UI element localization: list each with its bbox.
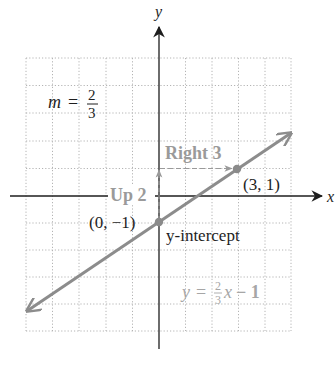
- coordinate-plane: x y m = 2 3 Right 3 Up 2 (3, 1) (0, −1) …: [0, 0, 335, 365]
- run-label: Right 3: [165, 143, 222, 163]
- point-label-0-neg1: (0, −1): [89, 213, 135, 232]
- svg-text:y: y: [180, 282, 190, 302]
- equation-label: y = 2 3 x − 1: [180, 279, 260, 307]
- svg-text:=: =: [68, 92, 78, 112]
- point-y-intercept: [155, 218, 163, 226]
- x-axis-label: x: [326, 188, 334, 205]
- svg-text:− 1: − 1: [236, 282, 260, 302]
- point-3-1: [233, 165, 241, 173]
- svg-text:2: 2: [88, 87, 96, 103]
- y-intercept-label: y-intercept: [166, 226, 240, 245]
- svg-text:x: x: [223, 282, 232, 302]
- svg-text:m: m: [48, 92, 61, 112]
- graph-figure: x y m = 2 3 Right 3 Up 2 (3, 1) (0, −1) …: [0, 0, 335, 365]
- y-axis-label: y: [153, 3, 163, 21]
- point-label-3-1: (3, 1): [243, 175, 280, 194]
- svg-text:3: 3: [88, 105, 96, 121]
- svg-text:2: 2: [215, 279, 221, 293]
- slope-label: m = 2 3: [48, 87, 98, 121]
- svg-text:=: =: [196, 282, 206, 302]
- svg-text:3: 3: [215, 293, 221, 307]
- rise-label: Up 2: [110, 185, 147, 205]
